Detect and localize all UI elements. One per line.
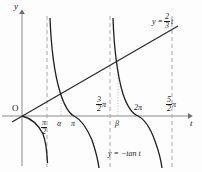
five-halves-pi-group: 5 2 π [166,96,176,113]
tick-label-pi-over-2: π 2 [41,119,47,136]
three-halves-pi-group: 3 2 π [96,96,106,113]
tan-curve-label: y = −tan t [108,150,141,158]
tan-curve-branch-3 [113,18,162,168]
fraction-denominator: 2 [41,127,47,136]
fraction-pi-over-2: π 2 [41,119,47,136]
tick-label-pi: π [71,120,75,128]
tick-label-five-pi-over-2: 5 2 π [166,96,176,113]
tick-label-alpha: α [57,120,61,128]
x-axis-label: t [190,119,193,128]
line-y-equals-two-thirds-t [12,26,178,122]
tangent-line-intersection-figure: y t O π 2 α π 3 2 π β 2π 5 2 [0,0,202,172]
pi-suffix: π [102,101,106,109]
tick-label-two-pi: 2π [134,104,142,112]
fraction-denominator: 3 [164,21,170,30]
line-equation-label: y = 2 3 t [152,13,173,30]
fraction-numerator: π [41,119,47,127]
pi-suffix: π [172,101,176,109]
fraction-numerator: 2 [164,13,170,21]
line-equation-group: y = 2 3 t [152,13,173,30]
fraction-two-thirds: 2 3 [164,13,170,30]
tick-label-beta: β [115,120,119,128]
y-axis-label: y [14,2,18,11]
origin-label: O [12,104,19,113]
line-equation-lhs: y = [152,18,163,26]
line-equation-variable: t [171,18,173,26]
tick-label-three-pi-over-2: 3 2 π [96,96,106,113]
tan-curve-branch-2 [50,18,99,168]
